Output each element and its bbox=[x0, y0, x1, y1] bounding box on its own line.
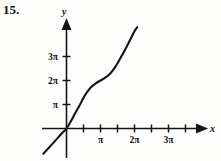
x-axis-arrow-icon bbox=[196, 124, 208, 134]
x-axis-label: x bbox=[209, 123, 215, 134]
graph-plot: 3π 2π π π 2π 3π x y bbox=[0, 0, 221, 161]
y-tick-label-2pi: 2π bbox=[48, 76, 59, 86]
x-tick-label-2pi: 2π bbox=[130, 135, 141, 145]
x-tick-label-pi: π bbox=[98, 135, 104, 145]
function-curve bbox=[43, 27, 137, 153]
y-axis-arrow-icon bbox=[62, 18, 72, 30]
x-tick-label-3pi: 3π bbox=[164, 135, 175, 145]
y-axis-label: y bbox=[61, 6, 67, 17]
y-tick-label-3pi: 3π bbox=[48, 52, 59, 62]
y-tick-label-pi: π bbox=[53, 100, 59, 110]
figure-container: 15. 3π 2π π π 2π bbox=[0, 0, 221, 161]
